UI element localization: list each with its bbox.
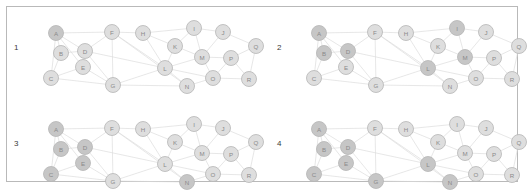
graph-node[interactable]: H <box>399 122 414 137</box>
graph-node[interactable]: R <box>505 168 520 183</box>
node-layer: ABCDEFGHIJKLMNOPQR <box>44 117 264 190</box>
node-label: L <box>426 161 430 168</box>
graph-node[interactable]: J <box>479 121 494 136</box>
graph-node[interactable]: K <box>168 135 183 150</box>
graph-node[interactable]: K <box>168 39 183 54</box>
node-label: H <box>141 126 145 133</box>
graph-node[interactable]: I <box>187 117 202 132</box>
node-label: O <box>211 75 216 82</box>
graph-node[interactable]: O <box>206 71 221 86</box>
graph-node[interactable]: E <box>76 60 91 75</box>
graph-node[interactable]: J <box>216 121 231 136</box>
graph-node[interactable]: F <box>105 121 120 136</box>
graph-node[interactable]: G <box>106 174 121 189</box>
graph-node[interactable]: I <box>187 21 202 36</box>
node-layer: ABCDEFGHIJKLMNOPQR <box>307 117 527 190</box>
node-label: P <box>229 55 233 62</box>
graph-node[interactable]: E <box>339 60 354 75</box>
graph-node[interactable]: F <box>105 25 120 40</box>
graph-node[interactable]: I <box>450 117 465 132</box>
graph-node[interactable]: J <box>479 25 494 40</box>
graph-node[interactable]: P <box>487 147 502 162</box>
node-label: G <box>374 178 379 185</box>
panel-1: 1 ABCDEFGHIJKLMNOPQR <box>14 6 264 98</box>
graph-node[interactable]: G <box>106 78 121 93</box>
graph-node[interactable]: C <box>44 167 59 182</box>
graph-node[interactable]: O <box>469 71 484 86</box>
graph-4: ABCDEFGHIJKLMNOPQR <box>277 102 527 194</box>
graph-node[interactable]: Q <box>512 135 527 150</box>
graph-node[interactable]: M <box>458 50 473 65</box>
graph-node[interactable]: C <box>307 71 322 86</box>
graph-node[interactable]: B <box>54 142 69 157</box>
graph-node[interactable]: E <box>339 156 354 171</box>
graph-node[interactable]: M <box>195 146 210 161</box>
graph-node[interactable]: R <box>505 72 520 87</box>
graph-node[interactable]: B <box>54 46 69 61</box>
graph-node[interactable]: I <box>450 21 465 36</box>
graph-edge <box>113 85 187 86</box>
graph-edge <box>319 128 375 129</box>
graph-node[interactable]: D <box>341 140 356 155</box>
graph-node[interactable]: K <box>431 135 446 150</box>
node-label: B <box>59 50 63 57</box>
graph-node[interactable]: Q <box>249 135 264 150</box>
graph-node[interactable]: G <box>369 174 384 189</box>
graph-edge <box>113 164 165 181</box>
graph-node[interactable]: P <box>224 147 239 162</box>
graph-node[interactable]: O <box>206 167 221 182</box>
graph-node[interactable]: F <box>368 25 383 40</box>
graph-node[interactable]: M <box>195 50 210 65</box>
graph-node[interactable]: L <box>158 61 173 76</box>
graph-node[interactable]: E <box>76 156 91 171</box>
graph-node[interactable]: H <box>136 122 151 137</box>
node-label: E <box>81 64 85 71</box>
graph-node[interactable]: B <box>317 142 332 157</box>
graph-node[interactable]: R <box>242 168 257 183</box>
graph-node[interactable]: C <box>307 167 322 182</box>
node-label: C <box>49 75 54 82</box>
graph-node[interactable]: Q <box>512 39 527 54</box>
graph-node[interactable]: J <box>216 25 231 40</box>
graph-node[interactable]: N <box>180 175 195 190</box>
graph-node[interactable]: H <box>399 26 414 41</box>
graph-node[interactable]: L <box>421 61 436 76</box>
graph-node[interactable]: N <box>443 79 458 94</box>
graph-node[interactable]: A <box>49 122 64 137</box>
graph-node[interactable]: B <box>317 46 332 61</box>
node-label: G <box>374 82 379 89</box>
graph-edge <box>376 85 450 86</box>
node-label: P <box>492 55 496 62</box>
node-label: P <box>492 151 496 158</box>
graph-node[interactable]: H <box>136 26 151 41</box>
graph-node[interactable]: A <box>49 26 64 41</box>
graph-node[interactable]: G <box>369 78 384 93</box>
graph-node[interactable]: L <box>421 157 436 172</box>
graph-node[interactable]: L <box>158 157 173 172</box>
graph-node[interactable]: K <box>431 39 446 54</box>
node-label: F <box>373 29 377 36</box>
graph-node[interactable]: F <box>368 121 383 136</box>
graph-node[interactable]: O <box>469 167 484 182</box>
graph-node[interactable]: D <box>78 44 93 59</box>
node-label: Q <box>517 139 522 146</box>
node-label: M <box>462 54 467 61</box>
graph-node[interactable]: R <box>242 72 257 87</box>
graph-node[interactable]: A <box>312 26 327 41</box>
graph-node[interactable]: D <box>78 140 93 155</box>
graph-node[interactable]: A <box>312 122 327 137</box>
graph-node[interactable]: C <box>44 71 59 86</box>
graph-node[interactable]: P <box>224 51 239 66</box>
node-label: B <box>59 146 63 153</box>
graph-node[interactable]: M <box>458 146 473 161</box>
graph-edge <box>56 32 112 33</box>
graph-node[interactable]: D <box>341 44 356 59</box>
graph-node[interactable]: N <box>180 79 195 94</box>
graph-node[interactable]: Q <box>249 39 264 54</box>
graph-node[interactable]: N <box>443 175 458 190</box>
panel-3: 3 ABCDEFGHIJKLMNOPQR <box>14 102 264 194</box>
graph-node[interactable]: P <box>487 51 502 66</box>
node-label: R <box>510 76 515 83</box>
node-label: G <box>111 82 116 89</box>
